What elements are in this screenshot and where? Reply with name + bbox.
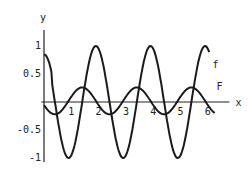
y-tick-label: 0.5 [23,68,41,79]
y-tick-label: -1 [29,152,41,163]
chart: x y 123456 10.5-0.5-1 f F [0,0,248,172]
x-axis-label: x [235,97,241,108]
x-tick-label: 5 [178,106,184,117]
y-tick-label: -0.5 [17,124,41,135]
series-F-label: F [217,81,223,92]
y-axis-label: y [40,12,46,23]
series-f-label: f [213,59,219,70]
y-tick-label: 1 [35,40,41,51]
x-tick-label: 1 [68,106,74,117]
x-tick-label: 3 [123,106,129,117]
